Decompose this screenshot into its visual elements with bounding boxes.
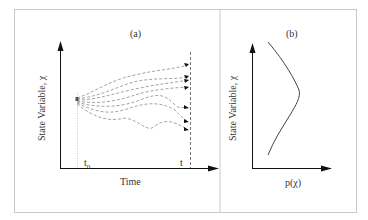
panel-a-x-axis-label: Time [120, 176, 141, 187]
arrowhead-icon [184, 63, 189, 67]
arrowhead-icon [184, 105, 189, 109]
tick-t: t [180, 157, 183, 168]
arrowhead-icon [184, 86, 189, 90]
x-axis-b-arrow-icon [321, 166, 332, 172]
y-axis-b-arrow-icon [250, 43, 256, 53]
panel-b-y-axis-label: State Variable, χ [227, 76, 238, 141]
outer-frame [15, 10, 357, 213]
panel-b [250, 42, 333, 172]
arrowhead-icon [184, 119, 189, 123]
figure: (a) State Variable, χ t0 t Time (b) Stat… [0, 0, 368, 220]
y-axis-arrow-icon [58, 41, 64, 51]
distribution-curve [268, 42, 299, 155]
panel-b-label: (b) [286, 28, 298, 39]
trajectories [77, 65, 188, 130]
tick-t0: t0 [84, 157, 90, 171]
arrowhead-icon [184, 75, 189, 79]
panel-a-y-axis-label: State Variable, χ [36, 76, 47, 141]
arrowhead-icon [184, 79, 189, 83]
trajectory-arrowheads [184, 63, 189, 131]
tick-t0-sub: 0 [87, 163, 91, 171]
panel-b-x-axis-label: p(χ) [285, 177, 301, 188]
panel-a [58, 41, 220, 172]
start-marker [76, 97, 79, 101]
arrowhead-icon [184, 127, 189, 131]
x-axis-arrow-icon [208, 166, 219, 172]
diagram-canvas [0, 0, 368, 220]
panel-a-label: (a) [130, 28, 141, 39]
